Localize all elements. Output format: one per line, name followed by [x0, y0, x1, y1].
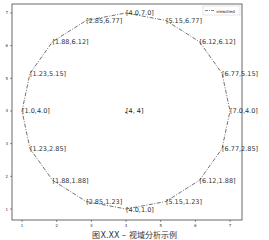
point-label: [1.88,6.12] [53, 38, 89, 46]
center-point: [4, 4] [125, 107, 143, 115]
point-label: [2.85,6.77] [86, 17, 122, 25]
center-label: [4, 4] [126, 107, 143, 115]
point-label: [7.0,4.0] [230, 107, 258, 115]
y-tick-label: 7 [5, 10, 8, 15]
legend-label: viewshed [216, 9, 235, 14]
point-label: [4.0,1.0] [126, 206, 154, 214]
y-tick-label: 3 [5, 141, 8, 146]
y-tick-label: 2 [5, 174, 8, 179]
point-label: [1.23,2.85] [30, 145, 66, 153]
y-tick-label: 4 [5, 108, 8, 113]
point-label: [1.23,5.15] [30, 70, 66, 78]
x-tick-label: 4 [125, 223, 128, 228]
point-label: [5.15,1.23] [166, 198, 202, 206]
point-label: [5.15,6.77] [166, 17, 202, 25]
y-tick-label: 1 [5, 207, 8, 212]
point-label: [1.0,4.0] [22, 107, 50, 115]
point-label: [6.77,2.85] [222, 145, 258, 153]
y-axis-ticks: 1234567 [5, 10, 12, 211]
point-label: [2.85,1.23] [86, 198, 122, 206]
legend: viewshed [203, 6, 240, 15]
y-tick-label: 6 [5, 43, 8, 48]
y-tick-label: 5 [5, 76, 8, 81]
point-label: [1.88,1.88] [53, 177, 89, 185]
x-tick-label: 1 [21, 223, 24, 228]
point-label: [6.77,5.15] [222, 70, 258, 78]
x-tick-label: 3 [90, 223, 93, 228]
figure-caption: 图X.XX – 视域分析示例 [0, 229, 269, 240]
x-tick-label: 2 [55, 223, 58, 228]
viewshed-chart: 1234567 1234567 [4.0,7.0][5.15,6.77][6.1… [0, 0, 269, 230]
point-label: [6.12,6.12] [200, 38, 236, 46]
point-label: [4.0,7.0] [126, 9, 154, 17]
x-tick-label: 7 [229, 223, 232, 228]
x-axis-ticks: 1234567 [21, 220, 232, 228]
x-tick-label: 6 [194, 223, 197, 228]
x-tick-label: 5 [159, 223, 162, 228]
point-label: [6.12,1.88] [200, 177, 236, 185]
